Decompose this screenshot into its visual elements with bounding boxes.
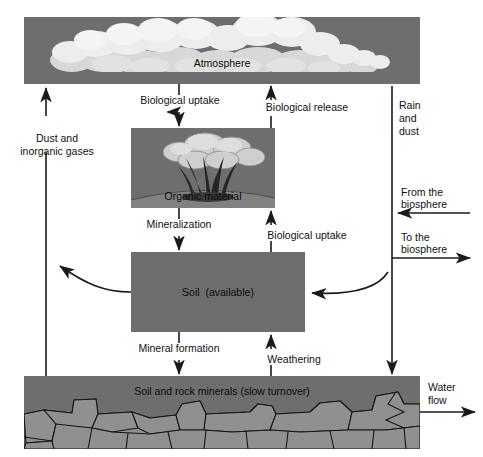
from-the-biosphere-line2: biosphere: [401, 198, 447, 211]
to-the-biosphere-line1: To the: [401, 231, 430, 244]
rain-and-dust-line3: dust: [399, 125, 419, 138]
mineralization-label: Mineralization: [112, 218, 246, 231]
water-flow-line1: Water: [428, 381, 456, 394]
arrow-right-riser-to-soil: [312, 272, 388, 293]
biological-release-label: Biological release: [232, 101, 382, 114]
dust-and-inorganic-gases-line2: inorganic gases: [2, 145, 112, 158]
from-the-biosphere-line1: From the: [401, 186, 443, 199]
rain-and-dust-line2: and: [399, 112, 417, 125]
rain-and-dust-line1: Rain: [399, 99, 421, 112]
water-flow-line2: flow: [428, 394, 447, 407]
arrow-soil-to-left-riser: [60, 266, 131, 292]
biological-uptake-soil-label: Biological uptake: [232, 229, 382, 242]
dust-and-inorganic-gases-line1: Dust and: [2, 132, 112, 145]
atmosphere-label: Atmosphere: [24, 57, 420, 69]
weathering-label: Weathering: [232, 353, 356, 366]
organic-material-label: Organic material: [131, 190, 275, 202]
soil-rock-minerals-label: Soil and rock minerals (slow turnover): [24, 385, 420, 397]
to-the-biosphere-line2: biosphere: [401, 243, 447, 256]
mineral-formation-label: Mineral formation: [108, 342, 250, 355]
biological-uptake-top-label: Biological uptake: [110, 94, 250, 107]
soil-label: Soil (available): [131, 286, 305, 298]
atmosphere-box: [24, 13, 420, 84]
diagram-canvas: Atmosphere Organic material Soil (availa…: [0, 0, 483, 457]
